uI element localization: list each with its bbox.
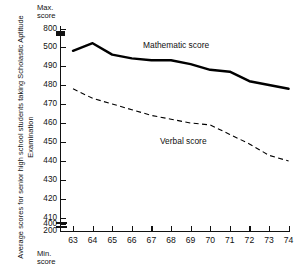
series-label-mathematic: Mathematic score [143, 41, 209, 50]
series-label-verbal: Verbal score [160, 137, 207, 146]
series-line-verbal [73, 89, 289, 161]
sat-scores-line-chart: Average scores for senior high school st… [0, 0, 296, 276]
series-line-mathematic [73, 43, 289, 89]
